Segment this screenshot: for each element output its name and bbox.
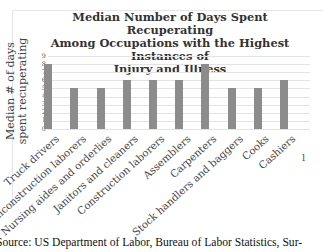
bar (254, 88, 262, 129)
source-text: Source: US Department of Labor, Bureau o… (0, 236, 302, 249)
gridline (48, 129, 310, 130)
bar (149, 80, 157, 129)
gridline (48, 56, 310, 57)
gridline (48, 72, 310, 73)
bar (280, 80, 288, 129)
bar (175, 80, 183, 129)
source-caption: Source: US Department of Labor, Bureau o… (0, 236, 302, 249)
title-line-1: Median Number of Days Spent Recuperating (30, 11, 310, 37)
plot-area: 0123456789 (48, 56, 310, 129)
bar (70, 88, 78, 129)
gridline (48, 64, 310, 65)
bar (123, 80, 131, 129)
bar (97, 88, 105, 129)
bar (228, 88, 236, 129)
bar (44, 64, 52, 129)
axis-fragment: l (302, 152, 305, 163)
bar (201, 64, 209, 129)
y-axis-label: Median # of days spent recuperating (5, 36, 29, 146)
y-tick-label: 9 (40, 53, 46, 60)
